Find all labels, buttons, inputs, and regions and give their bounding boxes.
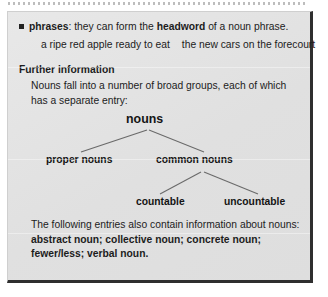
further-information-heading: Further information bbox=[19, 63, 299, 77]
square-bullet-icon bbox=[19, 24, 24, 29]
example-phrases-line: a ripe red apple ready to eatthe new car… bbox=[41, 38, 299, 52]
closing-paragraph: The following entries also contain infor… bbox=[31, 218, 303, 262]
phrases-bullet-line: phrases: they can form the headword of a… bbox=[19, 20, 299, 34]
phrases-text: phrases: they can form the headword of a… bbox=[29, 20, 288, 34]
headword-emphasis: headword bbox=[157, 21, 206, 32]
closing-entries: abstract noun; collective noun; concrete… bbox=[31, 234, 261, 260]
tree-node-proper-nouns: proper nouns bbox=[46, 154, 112, 165]
tree-node-nouns: nouns bbox=[126, 112, 163, 126]
noun-classification-tree: nouns proper nouns common nouns countabl… bbox=[8, 110, 314, 218]
phrases-after-term: : they can form the bbox=[69, 21, 157, 32]
phrases-tail: of a noun phrase. bbox=[205, 21, 288, 32]
example-phrase-first: a ripe red apple ready to eat bbox=[41, 39, 170, 50]
reference-panel: phrases: they can form the headword of a… bbox=[7, 11, 313, 283]
tree-node-countable: countable bbox=[136, 196, 185, 207]
scan-artifact-top bbox=[8, 2, 308, 5]
further-information-body: Nouns fall into a number of broad groups… bbox=[31, 79, 301, 108]
closing-intro: The following entries also contain infor… bbox=[31, 219, 299, 230]
phrases-term: phrases bbox=[29, 21, 69, 32]
example-phrase-second: the new cars on the forecourt bbox=[182, 39, 315, 50]
tree-node-common-nouns: common nouns bbox=[156, 154, 233, 165]
panel-content: phrases: they can form the headword of a… bbox=[8, 20, 310, 108]
tree-node-uncountable: uncountable bbox=[224, 196, 285, 207]
closing-block: The following entries also contain infor… bbox=[8, 218, 310, 262]
